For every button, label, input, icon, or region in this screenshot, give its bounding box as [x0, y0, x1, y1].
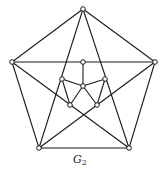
vertex-inner_bottom_left: [68, 103, 73, 108]
vertex-bottom_left: [37, 146, 42, 151]
graph-svg: G2: [0, 0, 166, 170]
graph-label: G2: [73, 153, 87, 167]
edge-center-inner_bottom_left: [70, 86, 83, 105]
edge-top-right: [83, 9, 155, 62]
vertex-inner_right: [103, 77, 108, 82]
vertex-inner_left: [60, 77, 65, 82]
edge-right-bottom_right: [129, 62, 155, 148]
edge-inner_right-inner_bottom_right: [97, 79, 105, 105]
edge-left-bottom_left: [12, 62, 39, 148]
vertex-bottom_right: [127, 146, 132, 151]
vertex-inner_top: [81, 60, 86, 65]
vertex-right: [153, 60, 158, 65]
vertex-top: [81, 7, 86, 12]
edge-center-inner_bottom_right: [83, 86, 97, 105]
edge-center-inner_right: [83, 79, 105, 86]
vertex-inner_bottom_right: [95, 103, 100, 108]
vertex-center: [81, 84, 86, 89]
edge-top-left: [12, 9, 83, 62]
edge-center-inner_left: [62, 79, 83, 86]
graph-figure: G2: [0, 0, 166, 170]
vertex-left: [10, 60, 15, 65]
